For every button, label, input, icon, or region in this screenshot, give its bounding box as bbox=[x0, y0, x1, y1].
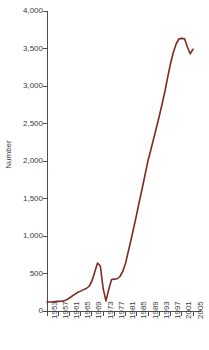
x-axis-tick-labels: 1953195719611965196919731977198119851989… bbox=[0, 0, 209, 350]
x-tick-label: 1981 bbox=[129, 301, 137, 319]
x-tick-label: 1989 bbox=[152, 301, 160, 319]
x-tick-label: 1997 bbox=[174, 301, 182, 319]
x-tick-label: 1993 bbox=[163, 301, 171, 319]
x-tick-label: 1969 bbox=[95, 301, 103, 319]
x-tick-label: 1965 bbox=[84, 301, 92, 319]
x-tick-label: 2005 bbox=[197, 301, 205, 319]
x-tick-label: 1953 bbox=[51, 301, 59, 319]
x-tick-label: 1977 bbox=[118, 301, 126, 319]
x-tick-label: 1957 bbox=[62, 301, 70, 319]
x-tick-label: 2001 bbox=[185, 301, 193, 319]
x-tick-label: 1985 bbox=[140, 301, 148, 319]
line-chart: Number 4,0003,5003,0002,5002,0001,5001,0… bbox=[0, 0, 209, 350]
x-tick-label: 1973 bbox=[107, 301, 115, 319]
x-tick-label: 1961 bbox=[73, 301, 81, 319]
